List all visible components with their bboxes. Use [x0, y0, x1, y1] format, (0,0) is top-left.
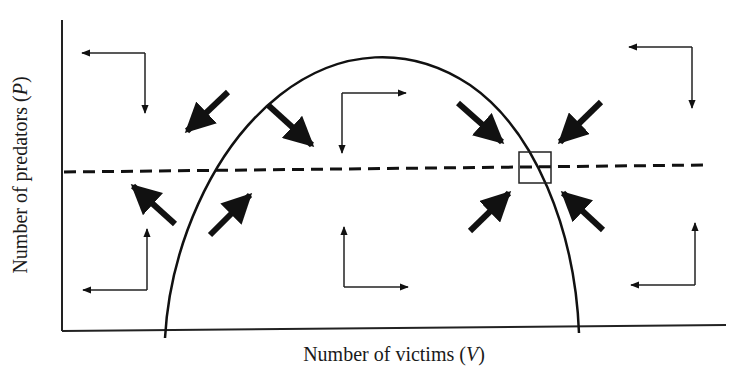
- victim-isocline-curve: [165, 57, 579, 338]
- thick-resultant-arrows: [133, 92, 603, 235]
- arrow-lower-right-outer: [563, 193, 603, 230]
- y-axis-label-text: Number of predators (: [9, 95, 31, 273]
- arrow-upper-right-inner: [458, 103, 502, 142]
- arrow-upper-right-outer: [560, 102, 601, 142]
- vector-bottom-center: [344, 227, 408, 287]
- arrow-upper-left-inner: [268, 105, 312, 145]
- x-axis-variable: V: [466, 343, 478, 365]
- arrow-upper-left-outer: [187, 92, 228, 131]
- axes: [62, 20, 726, 331]
- arrow-lower-left-inner: [210, 195, 250, 235]
- x-axis-label: Number of victims (V): [303, 343, 485, 366]
- x-axis-label-text: Number of victims (: [303, 343, 466, 365]
- vector-bottom-left: [83, 229, 147, 290]
- x-axis-label-close: ): [478, 343, 485, 365]
- vector-bottom-right: [631, 223, 695, 285]
- vector-top-center: [342, 93, 406, 153]
- predator-isocline-dashed-line: [64, 165, 705, 172]
- y-axis-variable: P: [9, 83, 31, 95]
- phase-plane-diagram: Number of predators (P) Number of victim…: [0, 0, 742, 379]
- diagram-graphics: [0, 0, 742, 379]
- arrow-lower-left-outer: [133, 186, 175, 224]
- vector-top-right: [629, 47, 692, 108]
- vector-top-left: [82, 53, 145, 113]
- x-axis: [62, 325, 726, 331]
- y-axis-label-close: ): [9, 76, 31, 83]
- arrow-lower-right-inner: [470, 193, 509, 231]
- y-axis-label: Number of predators (P): [9, 76, 32, 273]
